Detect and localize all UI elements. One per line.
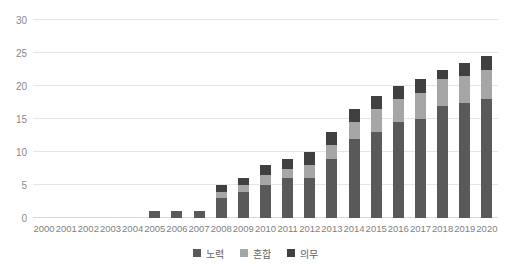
bar-slot: [299, 20, 321, 218]
bar-segment-honhap[interactable]: [326, 145, 337, 158]
bar-segment-uimu[interactable]: [216, 185, 227, 192]
bar-stack[interactable]: [393, 86, 404, 218]
bar-segment-uimu[interactable]: [481, 56, 492, 69]
bar-slot: [432, 20, 454, 218]
bar-slot: [476, 20, 498, 218]
bar-segment-uimu[interactable]: [415, 79, 426, 92]
bar-segment-honhap[interactable]: [459, 76, 470, 102]
bar-stack[interactable]: [371, 96, 382, 218]
bar-segment-uimu[interactable]: [459, 63, 470, 76]
bar-segment-uimu[interactable]: [393, 86, 404, 99]
x-axis-tick-label: 2020: [476, 221, 498, 237]
bar-segment-honhap[interactable]: [393, 99, 404, 122]
bar-segment-honhap[interactable]: [437, 79, 448, 105]
bar-segment-uimu[interactable]: [260, 165, 271, 175]
x-axis-tick-label: 2001: [55, 221, 77, 237]
x-axis-tick-label: 2007: [188, 221, 210, 237]
bar-segment-uimu[interactable]: [238, 178, 249, 185]
bar-stack[interactable]: [194, 211, 205, 218]
x-axis-tick-label: 2008: [210, 221, 232, 237]
bar-segment-honhap[interactable]: [260, 175, 271, 185]
bar-slot: [254, 20, 276, 218]
bar-segment-honhap[interactable]: [349, 122, 360, 139]
legend-item[interactable]: 의무: [287, 246, 318, 261]
bar-slot: [210, 20, 232, 218]
bar-segment-noryuk[interactable]: [459, 103, 470, 219]
legend-swatch-icon: [287, 249, 295, 257]
chart-legend: 노력혼합의무: [0, 245, 511, 261]
bar-slot: [409, 20, 431, 218]
bar-segment-noryuk[interactable]: [238, 192, 249, 218]
bar-segment-noryuk[interactable]: [304, 178, 315, 218]
bar-segment-noryuk[interactable]: [282, 178, 293, 218]
bar-stack[interactable]: [459, 63, 470, 218]
y-axis-tick-label: 15: [16, 114, 27, 125]
bar-slot: [144, 20, 166, 218]
legend-item-label: 의무: [300, 246, 318, 261]
bar-segment-noryuk[interactable]: [171, 211, 182, 218]
legend-item[interactable]: 혼합: [240, 246, 271, 261]
bar-segment-uimu[interactable]: [349, 109, 360, 122]
x-axis-tick-label: 2010: [254, 221, 276, 237]
bar-segment-uimu[interactable]: [371, 96, 382, 109]
bar-segment-honhap[interactable]: [415, 93, 426, 119]
x-axis-tick-label: 2000: [33, 221, 55, 237]
legend-item[interactable]: 노력: [193, 246, 224, 261]
bar-stack[interactable]: [238, 178, 249, 218]
x-axis-tick-label: 2003: [99, 221, 121, 237]
y-axis-tick-label: 5: [21, 180, 27, 191]
stacked-bar-chart: 051015202530 200020012002200320042005200…: [0, 0, 511, 265]
bar-slot: [188, 20, 210, 218]
bar-segment-noryuk[interactable]: [371, 132, 382, 218]
x-axis-tick-label: 2013: [321, 221, 343, 237]
bar-segment-honhap[interactable]: [238, 185, 249, 192]
bar-stack[interactable]: [171, 211, 182, 218]
x-axis-tick-label: 2004: [122, 221, 144, 237]
bar-segment-noryuk[interactable]: [349, 139, 360, 218]
legend-swatch-icon: [193, 249, 201, 257]
bar-stack[interactable]: [282, 159, 293, 218]
bar-slot: [33, 20, 55, 218]
bar-segment-noryuk[interactable]: [260, 185, 271, 218]
bar-segment-uimu[interactable]: [304, 152, 315, 165]
bar-segment-uimu[interactable]: [326, 132, 337, 145]
bar-segment-noryuk[interactable]: [437, 106, 448, 218]
bar-slot: [166, 20, 188, 218]
bar-segment-honhap[interactable]: [282, 169, 293, 179]
y-axis-tick-label: 30: [16, 15, 27, 26]
bar-stack[interactable]: [149, 211, 160, 218]
bar-segment-honhap[interactable]: [216, 192, 227, 199]
bar-segment-uimu[interactable]: [437, 70, 448, 80]
bar-segment-honhap[interactable]: [481, 70, 492, 100]
bar-stack[interactable]: [326, 132, 337, 218]
bar-slot: [343, 20, 365, 218]
bar-stack[interactable]: [481, 56, 492, 218]
bar-stack[interactable]: [437, 70, 448, 218]
bar-slot: [99, 20, 121, 218]
bar-slot: [77, 20, 99, 218]
bar-segment-noryuk[interactable]: [415, 119, 426, 218]
bar-segment-honhap[interactable]: [304, 165, 315, 178]
bar-segment-noryuk[interactable]: [326, 159, 337, 218]
bar-stack[interactable]: [260, 165, 271, 218]
bar-stack[interactable]: [415, 79, 426, 218]
bar-segment-noryuk[interactable]: [149, 211, 160, 218]
bar-slot: [321, 20, 343, 218]
bar-segment-noryuk[interactable]: [216, 198, 227, 218]
bar-slot: [232, 20, 254, 218]
bar-slot: [55, 20, 77, 218]
bar-segment-noryuk[interactable]: [481, 99, 492, 218]
legend-swatch-icon: [240, 249, 248, 257]
bar-segment-noryuk[interactable]: [194, 211, 205, 218]
y-axis-tick-label: 10: [16, 147, 27, 158]
legend-item-label: 혼합: [253, 246, 271, 261]
bar-series-container: [33, 20, 498, 218]
x-axis-tick-label: 2006: [166, 221, 188, 237]
y-axis-tick-label: 25: [16, 48, 27, 59]
bar-segment-noryuk[interactable]: [393, 122, 404, 218]
bar-segment-uimu[interactable]: [282, 159, 293, 169]
bar-segment-honhap[interactable]: [371, 109, 382, 132]
bar-stack[interactable]: [304, 152, 315, 218]
bar-stack[interactable]: [349, 109, 360, 218]
bar-stack[interactable]: [216, 185, 227, 218]
